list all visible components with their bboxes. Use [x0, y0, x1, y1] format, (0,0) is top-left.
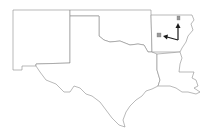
northern-marker [177, 16, 180, 20]
western-marker [157, 33, 161, 37]
state-new-mexico [13, 10, 70, 70]
state-louisiana [157, 52, 200, 94]
map [0, 0, 212, 134]
